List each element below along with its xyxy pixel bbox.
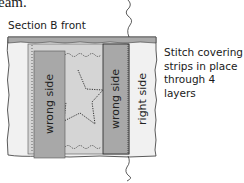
thread-bottom: [126, 156, 131, 181]
right-panel-label: right side: [136, 73, 149, 125]
top-band: [8, 37, 156, 43]
diagram-caption: Stitch covering strips in place through …: [164, 46, 244, 100]
left-strip-label: wrong side: [43, 74, 56, 134]
right-strip-label: wrong side: [109, 69, 122, 129]
thread-top: [126, 0, 131, 37]
